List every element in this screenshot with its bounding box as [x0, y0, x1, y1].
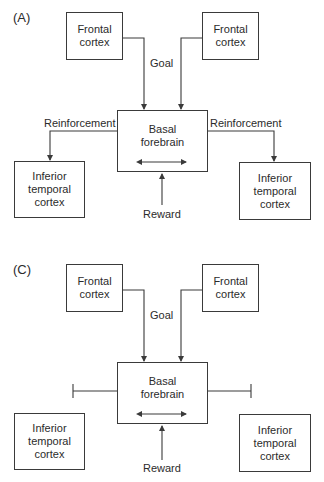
- inferior-temporal-right-line3: cortex: [254, 450, 297, 463]
- frontal-cortex-right-line1: Frontal: [213, 275, 247, 288]
- inferior-temporal-cortex-right-box: Inferiortemporalcortex: [239, 414, 311, 472]
- panel-a-label: (A): [13, 10, 30, 25]
- frontal-cortex-left-line2: cortex: [77, 288, 111, 301]
- basal-forebrain-box: Basalforebrain: [117, 110, 208, 172]
- inferior-temporal-cortex-left-box: Inferiortemporalcortex: [14, 413, 85, 470]
- basal-forebrain-line1: Basal: [141, 375, 184, 388]
- inferior-temporal-right-line3: cortex: [254, 198, 297, 211]
- inferior-temporal-cortex-right-box: Inferiortemporalcortex: [239, 162, 311, 220]
- basal-forebrain-line2: forebrain: [141, 136, 184, 149]
- reward-label: Reward: [143, 462, 181, 475]
- inferior-temporal-left-line2: temporal: [28, 435, 71, 448]
- panel-a: (A) Frontalcortex Frontalcortex Goal Bas…: [0, 0, 324, 240]
- basal-forebrain-line1: Basal: [141, 123, 184, 136]
- basal-forebrain-box: Basalforebrain: [117, 362, 208, 424]
- inferior-temporal-right-line2: temporal: [254, 437, 297, 450]
- frontal-cortex-right-box: Frontalcortex: [202, 264, 259, 312]
- goal-label: Goal: [150, 309, 173, 322]
- frontal-cortex-right-line1: Frontal: [213, 23, 247, 36]
- inferior-temporal-right-line1: Inferior: [254, 424, 297, 437]
- inferior-temporal-cortex-left-box: Inferiortemporalcortex: [14, 161, 85, 218]
- inferior-temporal-right-line2: temporal: [254, 185, 297, 198]
- inferior-temporal-left-line1: Inferior: [28, 422, 71, 435]
- inferior-temporal-left-line3: cortex: [28, 196, 71, 209]
- inferior-temporal-right-line1: Inferior: [254, 172, 297, 185]
- frontal-cortex-left-box: Frontalcortex: [66, 12, 123, 60]
- basal-forebrain-line2: forebrain: [141, 388, 184, 401]
- panel-c-label: (C): [13, 262, 31, 277]
- frontal-cortex-left-line1: Frontal: [77, 275, 111, 288]
- reinforcement-left-label: Reinforcement: [44, 117, 116, 130]
- frontal-cortex-right-line2: cortex: [213, 36, 247, 49]
- panel-c: (C) Frontalcortex Frontalcortex Goal Bas…: [0, 252, 324, 482]
- frontal-cortex-left-box: Frontalcortex: [66, 264, 123, 312]
- inferior-temporal-left-line1: Inferior: [28, 170, 71, 183]
- frontal-cortex-left-line2: cortex: [77, 36, 111, 49]
- reward-label: Reward: [143, 208, 181, 221]
- reinforcement-right-label: Reinforcement: [210, 117, 282, 130]
- inferior-temporal-left-line2: temporal: [28, 183, 71, 196]
- frontal-cortex-left-line1: Frontal: [77, 23, 111, 36]
- goal-label: Goal: [150, 57, 173, 70]
- frontal-cortex-right-box: Frontalcortex: [202, 12, 259, 60]
- inferior-temporal-left-line3: cortex: [28, 448, 71, 461]
- frontal-cortex-right-line2: cortex: [213, 288, 247, 301]
